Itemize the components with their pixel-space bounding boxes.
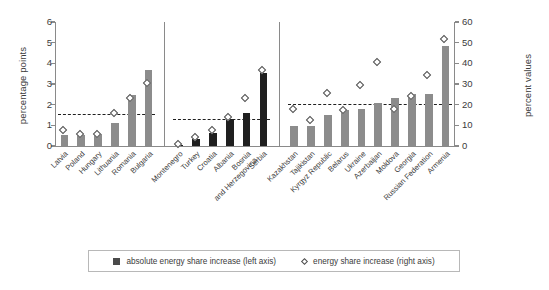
diamond-point — [423, 71, 431, 79]
right-tick-mark — [455, 145, 459, 146]
right-tick-mark — [455, 21, 459, 22]
bar — [226, 119, 234, 146]
bar — [61, 135, 69, 146]
bar — [209, 133, 217, 146]
bar — [260, 73, 268, 146]
bar — [425, 94, 433, 146]
bar — [290, 126, 298, 146]
right-tick-mark — [455, 83, 459, 84]
chart-legend: absolute energy share increase (left axi… — [88, 250, 460, 272]
bar — [341, 110, 349, 146]
diamond-point — [109, 108, 117, 116]
x-axis-line — [55, 146, 455, 147]
bar — [408, 94, 416, 146]
diamond-point — [440, 35, 448, 43]
right-tick-mark — [455, 63, 459, 64]
left-axis-line — [55, 22, 56, 146]
left-tick-label: 4 — [12, 58, 52, 68]
bar — [128, 95, 136, 146]
right-tick-label: 50 — [462, 38, 502, 48]
left-tick-label: 2 — [12, 100, 52, 110]
group-separator — [279, 22, 280, 146]
chart-figure: percentage points percent values 0123456… — [0, 0, 549, 290]
diamond-point — [305, 116, 313, 124]
bar — [358, 109, 366, 146]
right-tick-label: 60 — [462, 17, 502, 27]
legend-item-absolute-energy-share-increase: absolute energy share increase (left axi… — [113, 257, 276, 266]
left-tick-label: 0 — [12, 141, 52, 151]
left-tick-label: 6 — [12, 17, 52, 27]
legend-label: absolute energy share increase (left axi… — [126, 257, 276, 266]
right-tick-label: 30 — [462, 79, 502, 89]
right-tick-label: 0 — [462, 141, 502, 151]
right-tick-mark — [455, 104, 459, 105]
right-tick-mark — [455, 125, 459, 126]
group-average-line — [173, 119, 270, 120]
bar-swatch-icon — [113, 258, 120, 265]
bar — [324, 115, 332, 146]
bar — [111, 123, 119, 146]
group-average-line — [58, 114, 155, 115]
legend-label: energy share increase (right axis) — [313, 257, 435, 266]
bar — [243, 113, 251, 146]
left-tick-label: 1 — [12, 120, 52, 130]
left-tick-label: 3 — [12, 79, 52, 89]
diamond-point — [59, 126, 67, 134]
diamond-point — [241, 94, 249, 102]
bar — [374, 103, 382, 146]
right-tick-label: 20 — [462, 100, 502, 110]
diamond-point — [322, 89, 330, 97]
legend-item-energy-share-increase: energy share increase (right axis) — [302, 257, 435, 266]
diamond-point — [356, 81, 364, 89]
right-tick-label: 10 — [462, 120, 502, 130]
diamond-marker-icon — [301, 257, 308, 264]
diamond-point — [373, 58, 381, 66]
group-separator — [164, 22, 165, 146]
plot-area: 0123456 0102030405060 — [56, 22, 454, 146]
right-tick-label: 40 — [462, 58, 502, 68]
left-tick-label: 5 — [12, 38, 52, 48]
bar — [442, 46, 450, 146]
right-axis-title: percent values — [522, 21, 533, 151]
diamond-point — [289, 104, 297, 112]
bar — [307, 126, 315, 146]
right-tick-mark — [455, 42, 459, 43]
